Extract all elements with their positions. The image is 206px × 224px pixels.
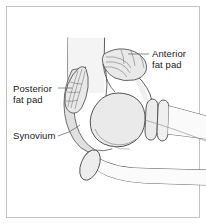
label-anterior-line2: fat pad bbox=[152, 59, 186, 70]
figure-canvas bbox=[0, 0, 206, 224]
radial-neck bbox=[157, 100, 169, 141]
elbow-fat-pad-figure: Anterior fat pad Posterior fat pad Synov… bbox=[0, 0, 206, 224]
label-posterior-line2: fat pad bbox=[13, 94, 52, 105]
label-posterior-fat-pad: Posterior fat pad bbox=[13, 83, 52, 105]
radial-head bbox=[145, 99, 158, 140]
label-anterior-fat-pad: Anterior fat pad bbox=[152, 48, 186, 70]
label-anterior-line1: Anterior bbox=[152, 48, 186, 59]
label-synovium: Synovium bbox=[13, 130, 56, 141]
label-synovium-line1: Synovium bbox=[13, 130, 56, 141]
label-posterior-line1: Posterior bbox=[13, 83, 52, 94]
